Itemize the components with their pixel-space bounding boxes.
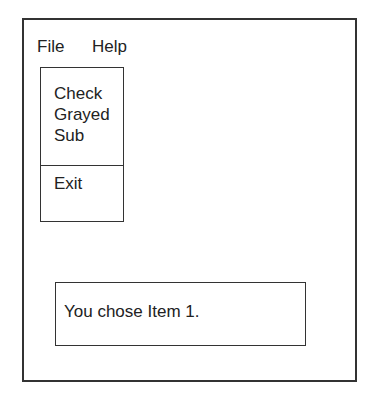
menu-group: Check Grayed Sub — [41, 68, 123, 166]
menu-help[interactable]: Help — [92, 37, 127, 57]
menu-file[interactable]: File — [37, 37, 64, 57]
menu-item-grayed[interactable]: Grayed — [54, 105, 110, 125]
message-text: You chose Item 1. — [64, 302, 199, 322]
menu-item-sub[interactable]: Sub — [54, 126, 84, 146]
file-menu-dropdown: Check Grayed Sub Exit — [40, 67, 124, 222]
menu-item-exit[interactable]: Exit — [54, 174, 82, 194]
menu-item-check[interactable]: Check — [54, 84, 102, 104]
message-box: You chose Item 1. — [55, 282, 306, 346]
